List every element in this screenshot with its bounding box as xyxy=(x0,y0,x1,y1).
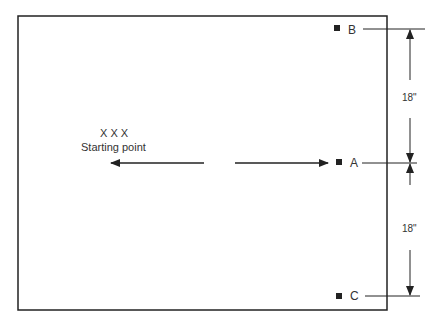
dimension-label-upper: 18" xyxy=(402,93,417,103)
start-marks: X X X xyxy=(100,128,128,139)
point-c-label: C xyxy=(350,290,359,302)
start-label: Starting point xyxy=(81,142,146,153)
point-b-label: B xyxy=(348,24,356,36)
diagram-canvas xyxy=(0,0,446,328)
dimension-label-lower: 18" xyxy=(402,224,417,234)
point-b-marker xyxy=(334,25,340,31)
point-c-marker xyxy=(336,293,342,299)
point-a-label: A xyxy=(350,157,358,169)
point-a-marker xyxy=(336,159,342,165)
